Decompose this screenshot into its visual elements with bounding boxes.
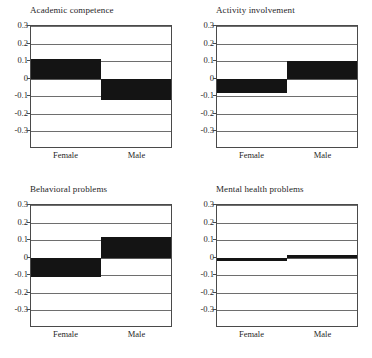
gridline <box>31 114 171 115</box>
plot-area <box>30 25 172 148</box>
gridline <box>217 223 357 224</box>
bar-male <box>287 61 357 79</box>
y-tick-label: 0.2 <box>2 217 28 226</box>
y-tick-label: 0.3 <box>2 21 28 30</box>
gridline <box>217 114 357 115</box>
y-tick-label: 0.2 <box>188 217 214 226</box>
gridline <box>31 44 171 45</box>
bar-female <box>31 258 101 277</box>
panel-title: Mental health problems <box>216 184 304 195</box>
x-label-female: Female <box>216 329 287 340</box>
bar-male <box>287 255 357 258</box>
y-tick-label: -0.3 <box>2 305 28 314</box>
x-label-female: Female <box>30 329 101 340</box>
gridline <box>217 26 357 27</box>
y-tick-label: 0.3 <box>188 200 214 209</box>
y-tick-label: 0.3 <box>2 200 28 209</box>
x-label-male: Male <box>287 150 358 161</box>
gridline <box>31 223 171 224</box>
x-label-male: Male <box>101 150 172 161</box>
x-axis-labels: Female Male <box>216 329 358 343</box>
gridline <box>217 310 357 311</box>
y-axis-ticks: 0.3 0.2 0.1 0 -0.1 -0.2 -0.3 <box>186 204 214 327</box>
gridline <box>217 275 357 276</box>
gridline <box>31 26 171 27</box>
gridline <box>217 44 357 45</box>
y-tick-label: 0.1 <box>188 235 214 244</box>
panel-behavioral-problems: Behavioral problems 0.3 0.2 0.1 0 -0.1 -… <box>0 179 186 358</box>
panel-academic-competence: Academic competence 0.3 0.2 0.1 0 -0.1 -… <box>0 0 186 179</box>
y-tick-label: -0.1 <box>2 91 28 100</box>
bar-female <box>217 258 287 261</box>
y-axis-ticks: 0.3 0.2 0.1 0 -0.1 -0.2 -0.3 <box>186 25 214 148</box>
panel-title: Behavioral problems <box>30 184 107 195</box>
panel-title: Activity involvement <box>216 5 295 16</box>
y-tick-label: -0.3 <box>188 126 214 135</box>
x-label-male: Male <box>101 329 172 340</box>
gridline <box>217 131 357 132</box>
gridline <box>217 293 357 294</box>
y-tick-label: 0 <box>2 73 28 82</box>
panel-activity-involvement: Activity involvement 0.3 0.2 0.1 0 -0.1 … <box>186 0 372 179</box>
gridline <box>31 131 171 132</box>
gridline <box>31 293 171 294</box>
gridline <box>217 96 357 97</box>
gridline <box>31 310 171 311</box>
y-axis-ticks: 0.3 0.2 0.1 0 -0.1 -0.2 -0.3 <box>0 25 28 148</box>
x-axis-labels: Female Male <box>30 150 172 164</box>
y-tick-label: 0 <box>2 252 28 261</box>
y-tick-label: -0.2 <box>188 287 214 296</box>
x-label-female: Female <box>216 150 287 161</box>
x-label-female: Female <box>30 150 101 161</box>
x-axis-labels: Female Male <box>30 329 172 343</box>
y-tick-label: -0.3 <box>2 126 28 135</box>
y-tick-label: -0.1 <box>2 270 28 279</box>
bar-male <box>101 237 171 258</box>
panel-mental-health-problems: Mental health problems 0.3 0.2 0.1 0 -0.… <box>186 179 372 358</box>
y-tick-label: -0.2 <box>2 108 28 117</box>
y-tick-label: -0.3 <box>188 305 214 314</box>
y-tick-label: 0.1 <box>2 235 28 244</box>
y-axis-ticks: 0.3 0.2 0.1 0 -0.1 -0.2 -0.3 <box>0 204 28 327</box>
x-axis-labels: Female Male <box>216 150 358 164</box>
y-tick-label: -0.2 <box>188 108 214 117</box>
bar-female <box>31 59 101 78</box>
y-tick-label: 0 <box>188 73 214 82</box>
plot-area <box>216 25 358 148</box>
y-tick-label: 0.2 <box>188 38 214 47</box>
bar-female <box>217 79 287 93</box>
y-tick-label: -0.1 <box>188 91 214 100</box>
y-tick-label: 0.2 <box>2 38 28 47</box>
gridline <box>217 205 357 206</box>
y-tick-label: 0.3 <box>188 21 214 30</box>
x-label-male: Male <box>287 329 358 340</box>
plot-area <box>216 204 358 327</box>
y-tick-label: 0 <box>188 252 214 261</box>
panel-title: Academic competence <box>30 5 114 16</box>
plot-area <box>30 204 172 327</box>
y-tick-label: 0.1 <box>2 56 28 65</box>
bar-male <box>101 79 171 100</box>
y-tick-label: -0.1 <box>188 270 214 279</box>
gridline <box>31 205 171 206</box>
y-tick-label: -0.2 <box>2 287 28 296</box>
gridline <box>217 240 357 241</box>
figure-small-multiples-bar-chart: Academic competence 0.3 0.2 0.1 0 -0.1 -… <box>0 0 372 358</box>
y-tick-label: 0.1 <box>188 56 214 65</box>
